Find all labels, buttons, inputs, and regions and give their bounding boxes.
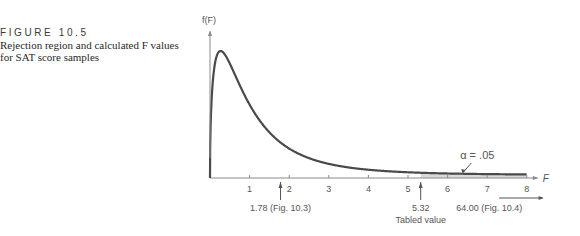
alpha-label: α = .05 bbox=[460, 149, 494, 161]
x-tick-label: 7 bbox=[485, 184, 490, 194]
x-tick-label: 4 bbox=[366, 184, 371, 194]
x-tick-label: 8 bbox=[524, 184, 529, 194]
annotation-label: 64.00 (Fig. 10.4) bbox=[456, 203, 522, 213]
annotation-label: 5.32 bbox=[412, 203, 430, 213]
arrow-head-icon bbox=[419, 182, 423, 188]
y-axis-label: f(F) bbox=[202, 15, 216, 25]
x-axis-label: F bbox=[543, 173, 550, 184]
x-tick-label: 5 bbox=[405, 184, 410, 194]
y-axis-arrow-icon bbox=[208, 30, 212, 36]
x-tick-label: 6 bbox=[445, 184, 450, 194]
annotation-label: 1.78 (Fig. 10.3) bbox=[250, 203, 311, 213]
x-axis-arrow-icon bbox=[533, 176, 539, 180]
annotation-sublabel: Tabled value bbox=[395, 215, 446, 225]
f-distribution-chart: f(F) F 12345678 1.78 (Fig. 10.3)5.32Tabl… bbox=[0, 0, 580, 236]
x-tick-label: 3 bbox=[326, 184, 331, 194]
arrow-head-icon bbox=[539, 196, 544, 200]
x-tick-label: 2 bbox=[287, 184, 292, 194]
arrow-head-icon bbox=[278, 182, 282, 188]
x-tick-label: 1 bbox=[247, 184, 252, 194]
